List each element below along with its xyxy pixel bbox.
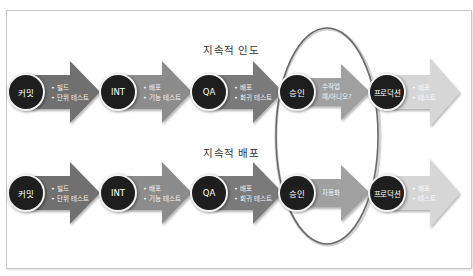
stage-item: 회귀 테스트: [234, 93, 272, 103]
stage-production-items: 배포 테스트: [412, 184, 436, 204]
stage-int-circle: INT: [99, 174, 137, 212]
stage-int-items: 배포 기능 테스트: [143, 184, 181, 204]
stage-int-circle: INT: [99, 73, 137, 111]
stage-item: 예/아니오?: [322, 92, 352, 102]
stage-int-items: 배포 기능 테스트: [143, 83, 181, 103]
stage-production-items: 배포 테스트: [412, 83, 436, 103]
stage-item: 단위 테스트: [51, 194, 89, 204]
stage-commit-items: 빌드 단위 테스트: [51, 83, 89, 103]
stage-item: 빌드: [51, 184, 89, 194]
stage-qa-items: 배포 회귀 테스트: [234, 184, 272, 204]
stage-qa-circle: QA: [190, 174, 228, 212]
stage-item: 배포: [412, 184, 436, 194]
stage-item: 배포: [234, 184, 272, 194]
stage-item: 테스트: [412, 93, 436, 103]
stage-item: 자동화: [322, 188, 340, 198]
stage-approval-items: 수작업 예/아니오?: [322, 82, 352, 102]
stage-item: 빌드: [51, 83, 89, 93]
stage-item: 기능 테스트: [143, 194, 181, 204]
stage-approval-circle: 승인: [278, 73, 316, 111]
stage-commit-items: 빌드 단위 테스트: [51, 184, 89, 204]
stage-approval-circle: 승인: [278, 174, 316, 212]
stage-item: 테스트: [412, 194, 436, 204]
stage-item: 배포: [143, 83, 181, 93]
stage-item: 기능 테스트: [143, 93, 181, 103]
row-title-continuous-delivery: 지속적 인도: [203, 42, 259, 57]
stage-item: 회귀 테스트: [234, 194, 272, 204]
stage-production-circle: 프로덕션: [368, 174, 406, 212]
stage-qa-items: 배포 회귀 테스트: [234, 83, 272, 103]
stage-item: 배포: [234, 83, 272, 93]
stage-item: 수작업: [322, 82, 352, 92]
stage-item: 단위 테스트: [51, 93, 89, 103]
stage-commit-circle: 커밋: [7, 73, 45, 111]
stage-item: 배포: [143, 184, 181, 194]
stage-qa-circle: QA: [190, 73, 228, 111]
stage-production-circle: 프로덕션: [368, 73, 406, 111]
stage-commit-circle: 커밋: [7, 174, 45, 212]
stage-approval-items: 자동화: [322, 188, 340, 198]
row-title-continuous-deployment: 지속적 배포: [203, 145, 259, 160]
stage-item: 배포: [412, 83, 436, 93]
